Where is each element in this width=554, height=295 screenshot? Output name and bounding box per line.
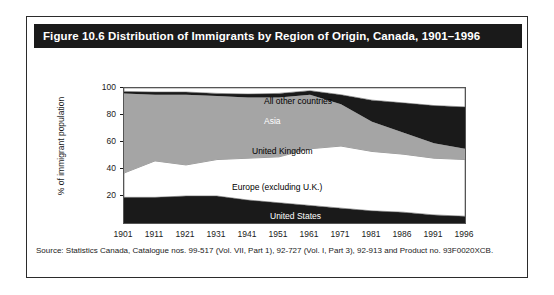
x-tick-1981: 1981 [362,229,381,239]
x-axis-ticks: 1901191119211931194119511961197119811986… [123,229,466,243]
x-tick-1961: 1961 [300,229,319,239]
band-label-all-other-countries: All other countries [264,96,332,106]
figure-title-bar: Figure 10.6 Distribution of Immigrants b… [34,24,522,48]
x-tick-1996: 1996 [455,229,474,239]
stacked-area-plot: All other countries Asia United Kingdom … [123,87,466,224]
y-tick-100: 100 [102,82,116,92]
x-tick-1931: 1931 [207,229,226,239]
x-tick-1991: 1991 [424,229,443,239]
x-tick-1971: 1971 [331,229,350,239]
y-tick-20: 20 [107,190,116,200]
y-axis-label: % of immigrant population [56,86,66,206]
x-tick-1901: 1901 [114,229,133,239]
y-axis-ticks: 100 80 60 40 20 [89,53,119,223]
x-tick-1921: 1921 [176,229,195,239]
band-label-europe-excluding-uk: Europe (excluding U.K.) [232,182,322,192]
figure-container: Figure 10.6 Distribution of Immigrants b… [26,16,528,278]
x-tick-1986: 1986 [393,229,412,239]
figure-title: Figure 10.6 Distribution of Immigrants b… [34,30,480,42]
x-tick-1911: 1911 [145,229,163,239]
chart-region: % of immigrant population 100 80 60 40 2… [27,53,529,243]
figure-source: Source: Statistics Canada, Catalogue nos… [36,245,516,257]
x-tick-1951: 1951 [269,229,288,239]
band-label-united-kingdom: United Kingdom [252,146,312,156]
y-tick-60: 60 [107,136,116,146]
band-label-asia: Asia [264,116,281,126]
x-tick-1941: 1941 [238,229,257,239]
y-tick-80: 80 [107,109,116,119]
band-label-united-states: United States [270,211,321,221]
y-tick-40: 40 [107,163,116,173]
